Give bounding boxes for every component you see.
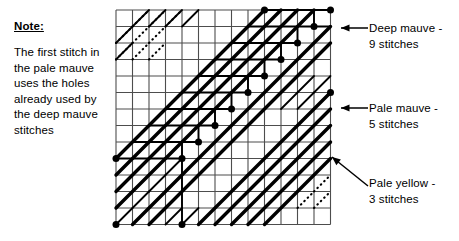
stitch-knot bbox=[195, 139, 202, 146]
stitch-knot bbox=[113, 221, 120, 228]
stitch-diagram: Note: The first stitch in the pale mauve… bbox=[0, 0, 459, 241]
short-stitch bbox=[166, 159, 183, 176]
short-stitch bbox=[166, 208, 183, 225]
stitch-knot bbox=[311, 23, 318, 30]
short-stitch bbox=[298, 76, 315, 93]
dotted-stitch bbox=[314, 192, 331, 209]
stitch-knot bbox=[228, 106, 235, 113]
stitch-knot bbox=[113, 155, 120, 162]
short-stitch bbox=[182, 208, 199, 225]
callout-arrows bbox=[332, 24, 368, 186]
callout-arrowhead-deep_mauve bbox=[341, 24, 350, 31]
chart-canvas bbox=[0, 0, 459, 241]
deep-mauve-stitch bbox=[116, 10, 265, 159]
short-stitch bbox=[149, 175, 166, 192]
stitch-knot bbox=[278, 56, 285, 63]
short-stitch bbox=[116, 208, 133, 225]
stitch-knot bbox=[245, 89, 252, 96]
stitch-knot bbox=[261, 7, 268, 14]
short-stitch bbox=[133, 192, 150, 209]
dotted-stitch bbox=[314, 175, 331, 192]
stitch-knot bbox=[179, 155, 186, 162]
stitch-knot bbox=[327, 7, 334, 14]
short-stitch bbox=[281, 93, 298, 110]
stitch-knot bbox=[212, 122, 219, 129]
pale-mauve-stitch bbox=[248, 142, 331, 225]
stitch-knot bbox=[294, 40, 301, 47]
short-stitch bbox=[182, 10, 199, 27]
dotted-stitch bbox=[149, 27, 166, 44]
stitch-knot bbox=[261, 73, 268, 80]
dotted-stitch bbox=[298, 192, 315, 209]
dotted-stitch bbox=[133, 27, 150, 44]
short-stitch bbox=[314, 76, 331, 93]
short-stitch bbox=[298, 93, 315, 110]
deep-mauve-stitch bbox=[116, 10, 298, 192]
dotted-stitch bbox=[133, 43, 150, 60]
deep-mauve-stitch bbox=[149, 43, 331, 225]
stitch-knot bbox=[179, 221, 186, 228]
dotted-stitch bbox=[149, 43, 166, 60]
callout-arrowhead-pale_mauve bbox=[341, 104, 350, 111]
stitch-knot bbox=[327, 89, 334, 96]
